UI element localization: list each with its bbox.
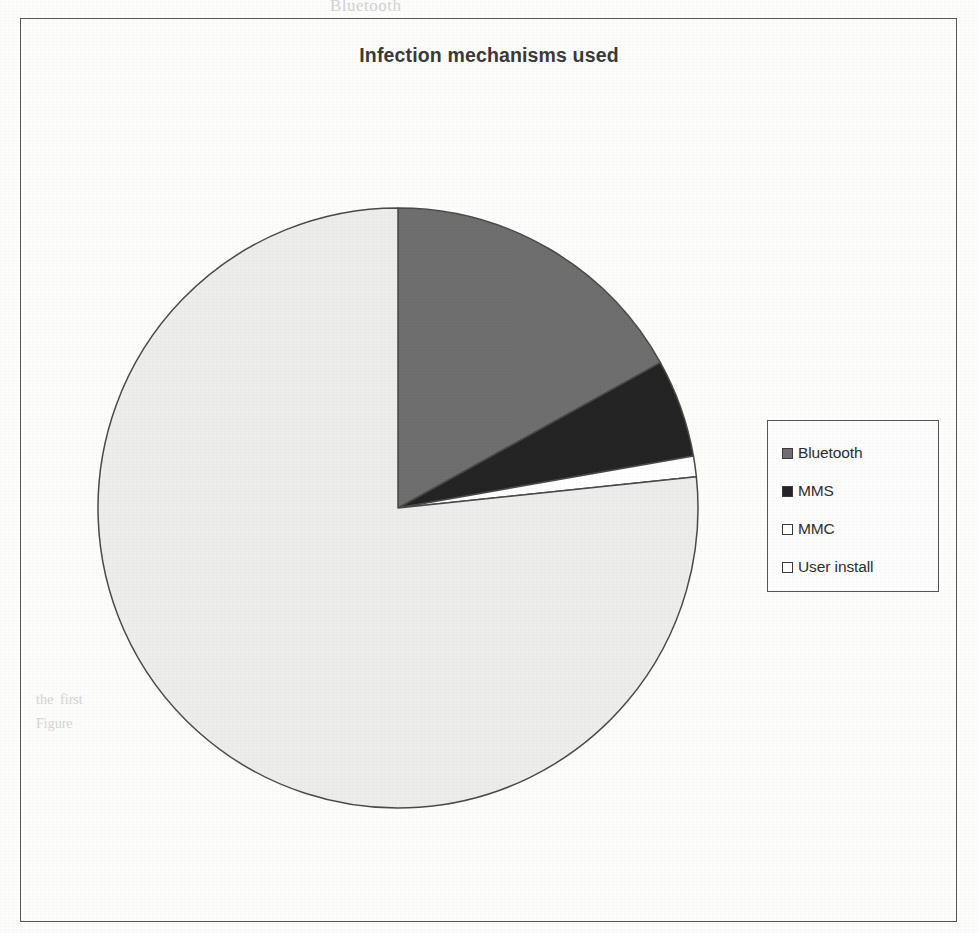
legend-item-mms[interactable]: MMS [782, 472, 938, 510]
legend-item-mmc[interactable]: MMC [782, 510, 938, 548]
legend-label-user-install: User install [798, 558, 873, 576]
legend-swatch-mms-icon [782, 486, 793, 497]
legend-item-bluetooth[interactable]: Bluetooth [782, 434, 938, 472]
legend-swatch-bluetooth-icon [782, 448, 793, 459]
legend-swatch-user-install-icon [782, 562, 793, 573]
chart-title: Infection mechanisms used [0, 44, 978, 67]
legend-label-mms: MMS [798, 482, 834, 500]
pie-slice-group [98, 208, 698, 808]
chart-legend: Bluetooth MMS MMC User install [767, 420, 939, 592]
legend-label-bluetooth: Bluetooth [798, 444, 863, 462]
legend-label-mmc: MMC [798, 520, 835, 538]
legend-swatch-mmc-icon [782, 524, 793, 535]
legend-item-user-install[interactable]: User install [782, 548, 938, 586]
